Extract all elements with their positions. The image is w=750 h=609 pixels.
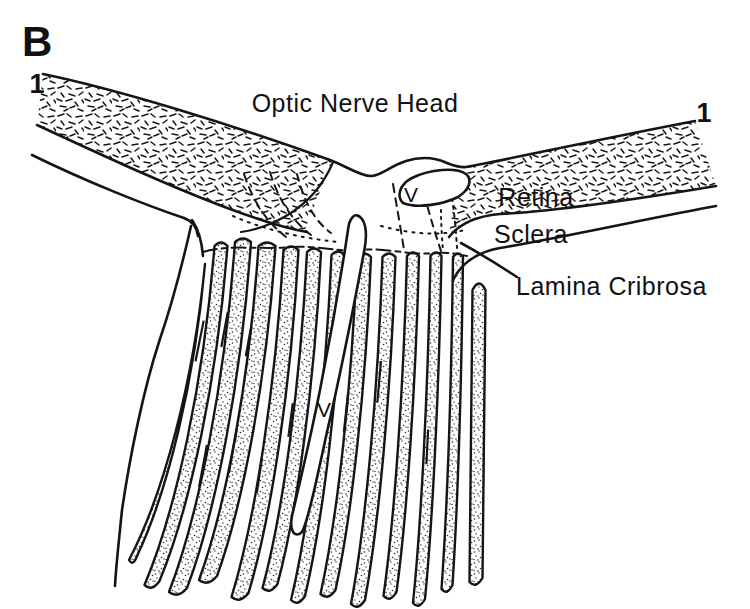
sclera-outer-line-right xyxy=(453,206,716,280)
section-marker-left: 1 xyxy=(29,69,44,99)
nerve-left-edge xyxy=(115,226,191,586)
panel-label: B xyxy=(22,18,52,65)
figure-labels: B 1 1 Optic Nerve Head Retina Sclera Lam… xyxy=(22,18,712,421)
retina-band-right xyxy=(449,121,716,237)
label-retina: Retina xyxy=(498,183,573,211)
figure-panel: B 1 1 Optic Nerve Head Retina Sclera Lam… xyxy=(0,0,750,609)
label-sclera: Sclera xyxy=(494,220,568,248)
title-optic-nerve-head: Optic Nerve Head xyxy=(252,89,459,117)
optic-nerve-head-diagram: B 1 1 Optic Nerve Head Retina Sclera Lam… xyxy=(0,0,750,609)
section-marker-right: 1 xyxy=(696,98,711,128)
label-vessel-central: V xyxy=(317,398,331,421)
nerve-fiber-bundle xyxy=(442,254,464,592)
label-vessel-top: V xyxy=(404,183,418,206)
label-lamina-cribrosa: Lamina Cribrosa xyxy=(516,272,707,300)
nerve-fiber-bundles xyxy=(129,239,486,607)
nerve-fiber-bundle xyxy=(470,284,486,585)
